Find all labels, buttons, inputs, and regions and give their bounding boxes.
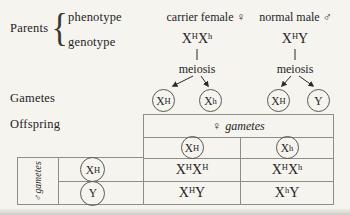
allele-base: X xyxy=(185,142,193,154)
allele-sup: H xyxy=(202,162,208,172)
offspring-cell-XhY: XhY xyxy=(241,182,333,204)
offspring-cell-XHY: XHY xyxy=(144,182,241,204)
female-gametes-row: XH Xh xyxy=(144,137,333,158)
allele-base: Y xyxy=(289,185,299,200)
gametes-label: Gametes xyxy=(10,91,55,106)
punnett-table: ♀ gametes XH Xh XHXH XHXh xyxy=(143,114,334,205)
gamete-circle-female-Xh: Xh xyxy=(199,89,222,112)
male-gametes-header-label: gametes xyxy=(33,161,43,194)
allele-base: X xyxy=(198,31,208,46)
gamete-circle-male-Y: Y xyxy=(307,89,330,112)
allele-base: X xyxy=(271,95,279,107)
gamete-circle-female-Xh: Xh xyxy=(276,136,299,159)
male-gametes-header: ♂gametes xyxy=(18,158,59,204)
allele-base: X xyxy=(288,162,298,177)
female-phenotype-text: carrier female xyxy=(167,10,234,24)
male-gametes-header-text: ♂gametes xyxy=(33,161,43,201)
male-gamete-cell-Y: Y xyxy=(59,181,143,204)
male-phenotype-text: normal male xyxy=(259,10,319,24)
male-gametes-table: ♂gametes XH Y xyxy=(17,157,143,205)
genotype-label: genotype xyxy=(68,35,115,50)
inheritance-diagram: Parents { phenotype genotype Gametes Off… xyxy=(0,0,350,215)
male-phenotype: normal male ♂ xyxy=(248,10,343,25)
allele-sup: h xyxy=(298,162,302,172)
allele-base: X xyxy=(282,31,292,46)
offspring-cell-XHXH: XHXH xyxy=(144,159,241,181)
offspring-label: Offspring xyxy=(10,117,60,132)
offspring-row-2: XHY XhY xyxy=(144,181,333,204)
female-phenotype: carrier female ♀ xyxy=(150,10,262,25)
allele-base: Y xyxy=(195,185,205,200)
allele-base: X xyxy=(86,164,94,176)
allele-base: Y xyxy=(314,95,322,107)
parents-brace: { xyxy=(51,9,67,47)
allele-base: X xyxy=(281,142,289,154)
allele-base: X xyxy=(204,95,212,107)
male-symbol: ♂ xyxy=(323,10,332,24)
offspring-cell-XHXh: XHXh xyxy=(241,159,333,181)
gamete-circle-male-Y: Y xyxy=(80,181,105,206)
allele-base: X xyxy=(156,95,164,107)
phenotype-label: phenotype xyxy=(68,10,122,25)
female-symbol: ♀ xyxy=(212,119,221,134)
gamete-circle-male-XH: XH xyxy=(267,89,290,112)
allele-base: X xyxy=(275,185,285,200)
female-gametes-header-label: gametes xyxy=(225,119,264,134)
allele-sup: h xyxy=(208,31,212,41)
gamete-circle-male-XH: XH xyxy=(80,157,105,182)
allele-base: X xyxy=(176,162,186,177)
parents-label: Parents xyxy=(10,21,48,36)
allele-base: X xyxy=(192,162,202,177)
page-bottom-shadow xyxy=(0,208,350,215)
male-genotype: XHY xyxy=(260,31,330,47)
male-gametes-rows: XH Y xyxy=(59,158,143,204)
female-genotype: XHXh xyxy=(162,31,232,47)
female-gamete-cell-XH: XH xyxy=(144,138,241,158)
allele-base: X xyxy=(179,185,189,200)
male-meiosis-label: meiosis xyxy=(260,62,330,77)
female-meiosis-label: meiosis xyxy=(162,62,232,77)
allele-base: Y xyxy=(298,31,308,46)
allele-base: Y xyxy=(89,187,97,199)
offspring-row-1: XHXH XHXh xyxy=(144,158,333,181)
female-symbol: ♀ xyxy=(236,10,245,24)
gamete-circle-female-XH: XH xyxy=(152,89,175,112)
female-gametes-header: ♀ gametes xyxy=(144,115,333,137)
gamete-circle-female-XH: XH xyxy=(181,136,204,159)
allele-base: X xyxy=(182,31,192,46)
male-symbol: ♂ xyxy=(33,194,43,201)
allele-base: X xyxy=(272,162,282,177)
male-gamete-cell-XH: XH xyxy=(59,158,143,181)
female-gamete-cell-Xh: Xh xyxy=(241,138,333,158)
